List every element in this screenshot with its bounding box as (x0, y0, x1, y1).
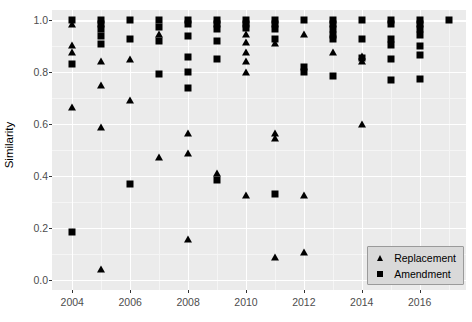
data-point-replacement (126, 55, 134, 62)
data-point-replacement (126, 97, 134, 104)
data-point-replacement (242, 38, 250, 45)
data-point-amendment (156, 23, 163, 30)
gridline-major-vertical (130, 10, 131, 290)
data-point-amendment (387, 77, 394, 84)
data-point-replacement (242, 49, 250, 56)
data-point-amendment (329, 35, 336, 42)
x-tick-mark (130, 290, 131, 293)
data-point-amendment (214, 38, 221, 45)
data-point-amendment (214, 176, 221, 183)
data-point-amendment (69, 228, 76, 235)
data-point-amendment (300, 17, 307, 24)
square-marker-icon (373, 271, 386, 277)
y-axis-title-label: Similarity (3, 122, 15, 169)
data-point-amendment (445, 17, 452, 24)
data-point-amendment (416, 75, 423, 82)
data-point-replacement (97, 58, 105, 65)
data-point-replacement (358, 120, 366, 127)
data-point-amendment (185, 32, 192, 39)
data-point-replacement (97, 81, 105, 88)
data-point-amendment (329, 73, 336, 80)
legend-item-label: Replacement (394, 252, 456, 264)
data-point-amendment (69, 17, 76, 24)
legend-item-replacement[interactable]: Replacement (373, 251, 456, 264)
data-point-amendment (127, 35, 134, 42)
data-point-amendment (214, 56, 221, 63)
gridline-minor-horizontal (52, 150, 466, 151)
gridline-minor-horizontal (52, 202, 466, 203)
gridline-major-horizontal (52, 72, 466, 73)
data-point-replacement (184, 235, 192, 242)
triangle-marker-icon (373, 255, 386, 261)
data-point-amendment (387, 56, 394, 63)
x-tick-mark (304, 290, 305, 293)
legend: ReplacementAmendment (367, 246, 464, 285)
data-point-amendment (271, 26, 278, 33)
legend-item-amendment[interactable]: Amendment (373, 267, 456, 280)
x-tick-label: 2008 (176, 296, 199, 308)
data-point-amendment (271, 191, 278, 198)
y-tick-label: 0.8 (33, 67, 48, 77)
data-point-amendment (185, 69, 192, 76)
data-point-amendment (300, 69, 307, 76)
data-point-replacement (184, 129, 192, 136)
data-point-amendment (185, 53, 192, 60)
data-point-amendment (358, 17, 365, 24)
data-point-replacement (242, 191, 250, 198)
gridline-minor-vertical (275, 10, 276, 290)
data-point-replacement (68, 41, 76, 48)
data-point-amendment (98, 32, 105, 39)
data-point-amendment (358, 35, 365, 42)
data-point-amendment (127, 17, 134, 24)
data-point-replacement (97, 265, 105, 272)
gridline-minor-vertical (159, 10, 160, 290)
legend-item-label: Amendment (394, 268, 451, 280)
data-point-amendment (98, 40, 105, 47)
x-axis-ticks: 2004200620082010201220142016 (0, 290, 472, 322)
data-point-amendment (69, 61, 76, 68)
x-tick-label: 2006 (118, 296, 141, 308)
data-point-replacement (300, 248, 308, 255)
x-tick-label: 2014 (350, 296, 373, 308)
data-point-amendment (387, 42, 394, 49)
data-point-replacement (242, 58, 250, 65)
data-point-replacement (97, 124, 105, 131)
data-point-amendment (156, 70, 163, 77)
data-point-replacement (300, 191, 308, 198)
data-point-amendment (185, 21, 192, 28)
gridline-major-horizontal (52, 124, 466, 125)
data-point-replacement (184, 150, 192, 157)
data-point-replacement (68, 49, 76, 56)
data-point-amendment (416, 52, 423, 59)
x-tick-label: 2012 (292, 296, 315, 308)
y-tick-label: 0.6 (33, 119, 48, 129)
y-tick-label: 0.0 (33, 275, 48, 285)
y-axis-title: Similarity (0, 0, 18, 290)
data-point-replacement (213, 169, 221, 176)
gridline-major-horizontal (52, 176, 466, 177)
data-point-replacement (271, 254, 279, 261)
gridline-minor-vertical (217, 10, 218, 290)
data-point-amendment (271, 35, 278, 42)
y-tick-label: 0.2 (33, 223, 48, 233)
data-point-replacement (329, 49, 337, 56)
data-point-amendment (185, 84, 192, 91)
gridline-major-horizontal (52, 20, 466, 21)
data-point-amendment (242, 25, 249, 32)
data-point-replacement (68, 103, 76, 110)
x-tick-mark (246, 290, 247, 293)
data-point-replacement (155, 154, 163, 161)
x-tick-label: 2004 (61, 296, 84, 308)
data-point-amendment (127, 180, 134, 187)
data-point-amendment (358, 54, 365, 61)
gridline-major-horizontal (52, 228, 466, 229)
x-tick-label: 2016 (408, 296, 431, 308)
data-point-amendment (387, 21, 394, 28)
x-tick-mark (188, 290, 189, 293)
data-point-amendment (416, 43, 423, 50)
data-point-replacement (300, 31, 308, 38)
gridline-minor-horizontal (52, 98, 466, 99)
y-tick-label: 1.0 (33, 15, 48, 25)
data-point-replacement (242, 68, 250, 75)
data-point-amendment (156, 38, 163, 45)
